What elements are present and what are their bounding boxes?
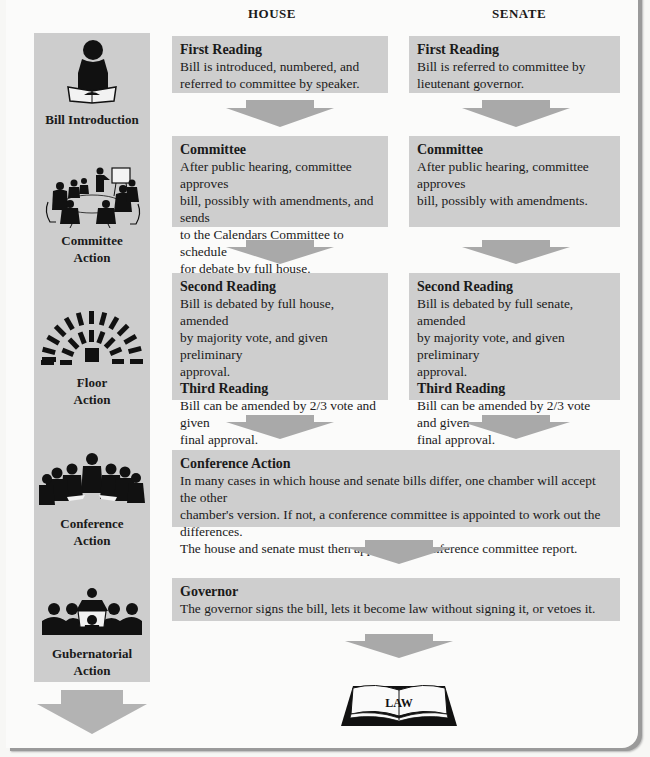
stage-conference-action: Conference Action (34, 451, 150, 549)
senate-committee-box: Committee After public hearing, committe… (409, 136, 620, 227)
senate-first-reading-box: First Reading Bill is referred to commit… (409, 36, 620, 93)
box-line: approval. (417, 363, 612, 380)
box-line: bill, possibly with amendments, and send… (180, 192, 380, 226)
box-line: In many cases in which house and senate … (180, 472, 612, 506)
conference-group-icon (39, 451, 145, 507)
box-line: Bill is introduced, numbered, and (180, 58, 380, 75)
box-line: Bill is debated by full house, amended (180, 295, 380, 329)
house-column-header: HOUSE (248, 6, 296, 22)
stage-floor-action: Floor Action (34, 308, 150, 408)
senate-floor-readings-box: Second Reading Bill is debated by full s… (409, 273, 620, 400)
stage-label: Action (34, 532, 150, 549)
box-title: Committee (180, 141, 380, 158)
box-line: lieutenant governor. (417, 75, 612, 92)
senate-flow-arrow (462, 415, 570, 439)
stage-label: Action (34, 249, 150, 266)
box-line: After public hearing, committee approves (417, 158, 612, 192)
box-line: Bill is referred to committee by (417, 58, 612, 75)
box-line: bill, possibly with amendments. (417, 192, 612, 209)
box-line: by majority vote, and given preliminary (417, 329, 612, 363)
house-flow-arrow (226, 240, 334, 264)
box-line: After public hearing, committee approves (180, 158, 380, 192)
conference-flow-arrow (345, 540, 453, 564)
governor-podium-icon (40, 587, 144, 637)
stage-label: Conference (34, 515, 150, 532)
box-title: Governor (180, 583, 612, 600)
box-line: approval. (180, 363, 380, 380)
stage-bill-introduction: Bill Introduction (34, 37, 150, 128)
stage-label: Floor (34, 374, 150, 391)
stage-label: Action (34, 662, 150, 679)
governor-box: Governor The governor signs the bill, le… (172, 578, 620, 621)
box-title: Third Reading (180, 380, 380, 397)
chamber-seating-icon (39, 308, 145, 366)
box-title: Committee (417, 141, 612, 158)
box-title: Third Reading (417, 380, 612, 397)
box-line: chamber's version. If not, a conference … (180, 506, 612, 540)
box-line: Bill is debated by full senate, amended (417, 295, 612, 329)
reader-silhouette-icon (62, 37, 122, 105)
box-line: referred to committee by speaker. (180, 75, 380, 92)
box-title: Conference Action (180, 455, 612, 472)
senate-column-header: SENATE (492, 6, 546, 22)
governor-flow-arrow (345, 634, 453, 658)
stage-label: Bill Introduction (34, 111, 150, 128)
box-line: The governor signs the bill, lets it bec… (180, 600, 612, 617)
house-first-reading-box: First Reading Bill is introduced, number… (172, 36, 388, 93)
house-flow-arrow (226, 415, 334, 439)
stage-gubernatorial-action: Gubernatorial Action (34, 587, 150, 679)
stage-label: Committee (34, 232, 150, 249)
box-title: Second Reading (417, 278, 612, 295)
senate-flow-arrow (462, 240, 570, 264)
committee-meeting-icon (40, 166, 144, 228)
stage-committee-action: Committee Action (34, 166, 150, 266)
stage-flow-arrow (36, 690, 148, 734)
stage-label: Action (34, 391, 150, 408)
stage-label: Gubernatorial (34, 645, 150, 662)
senate-flow-arrow (462, 100, 570, 127)
house-floor-readings-box: Second Reading Bill is debated by full h… (172, 273, 388, 400)
conference-action-box: Conference Action In many cases in which… (172, 450, 620, 527)
law-label: LAW (385, 696, 412, 710)
stage-column: Bill Introduction (34, 33, 150, 682)
box-title: First Reading (417, 41, 612, 58)
house-flow-arrow (226, 100, 334, 127)
box-line: by majority vote, and given preliminary (180, 329, 380, 363)
open-book-icon: LAW (339, 680, 459, 728)
box-title: First Reading (180, 41, 380, 58)
box-title: Second Reading (180, 278, 380, 295)
house-committee-box: Committee After public hearing, committe… (172, 136, 388, 227)
